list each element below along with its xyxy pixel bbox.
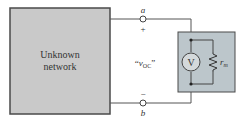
voltmeter-block: V rm xyxy=(178,32,235,92)
terminal-a-label: a xyxy=(141,5,146,15)
voltmeter-icon: V xyxy=(182,53,200,71)
unknown-network-block: Unknown network xyxy=(10,8,110,114)
voltage-label: “vOC” xyxy=(135,58,155,69)
terminal-a-node-icon xyxy=(140,16,146,22)
svg-text:“vOC”: “vOC” xyxy=(135,58,155,69)
terminal-b: − b xyxy=(140,89,146,118)
voltage-subscript: OC xyxy=(143,63,151,69)
terminal-a: a + xyxy=(140,5,146,34)
voltage-close-quote: ” xyxy=(151,58,155,68)
junction-dot-top xyxy=(189,38,192,41)
terminal-b-label: b xyxy=(141,108,146,118)
network-label-line1: Unknown xyxy=(40,49,79,60)
network-label-line2: network xyxy=(44,61,77,72)
voltmeter-label: V xyxy=(187,57,195,68)
terminal-a-polarity: + xyxy=(140,24,145,34)
junction-dot-bottom xyxy=(189,82,192,85)
circuit-diagram: Unknown network a + − b “vOC” xyxy=(0,0,237,123)
terminal-b-node-icon xyxy=(140,100,146,106)
terminal-b-polarity: − xyxy=(140,89,145,99)
